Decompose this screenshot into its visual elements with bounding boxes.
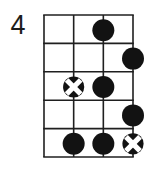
finger-dot [92,76,114,98]
finger-dot [122,104,144,126]
finger-dot [92,19,114,41]
finger-dot [92,133,114,155]
finger-dot [63,133,85,155]
finger-dot [122,48,144,70]
chord-diagram-panel: 4 [0,0,153,169]
chord-diagram-svg [0,0,153,169]
